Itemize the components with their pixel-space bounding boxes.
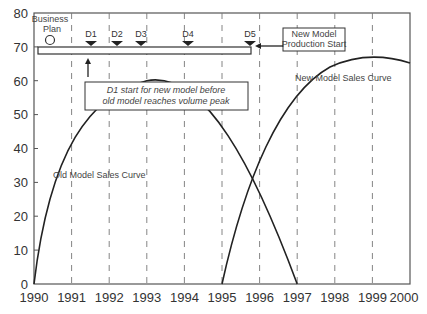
- production-start-arrow-icon: [255, 43, 283, 49]
- d3-triangle-icon: [135, 41, 147, 46]
- d1-label: D1: [85, 29, 97, 39]
- d2-label: D2: [111, 29, 123, 39]
- old-model-curve-label: Old Model Sales Curve: [53, 170, 146, 180]
- x-tick-1992: 1992: [95, 290, 124, 305]
- y-tick-20: 20: [14, 209, 28, 224]
- y-tick-70: 70: [14, 40, 28, 55]
- x-tick-1996: 1996: [245, 290, 274, 305]
- d1-arrow-icon: [85, 58, 91, 77]
- d2-triangle-icon: [111, 41, 123, 46]
- y-tick-50: 50: [14, 107, 28, 122]
- x-tick-2000: 2000: [390, 290, 419, 305]
- y-tick-30: 30: [14, 175, 28, 190]
- x-tick-1994: 1994: [170, 290, 199, 305]
- d4-label: D4: [182, 29, 194, 39]
- x-tick-1991: 1991: [57, 290, 86, 305]
- x-tick-1997: 1997: [283, 290, 312, 305]
- x-tick-1999: 1999: [358, 290, 387, 305]
- d5-triangle-icon: [244, 41, 256, 46]
- d4-triangle-icon: [182, 41, 194, 46]
- milestone-markers: [85, 41, 256, 46]
- business-plan-label-1: Business: [32, 14, 69, 24]
- x-tick-1995: 1995: [208, 290, 237, 305]
- y-tick-40: 40: [14, 141, 28, 156]
- development-timeline-bar: [38, 47, 251, 54]
- new-model-curve-label: New Model Sales Curve: [295, 73, 392, 83]
- x-tick-1998: 1998: [320, 290, 349, 305]
- y-tick-10: 10: [14, 243, 28, 258]
- x-tick-1993: 1993: [132, 290, 161, 305]
- d3-label: D3: [135, 29, 147, 39]
- x-axis-labels: 1990 1991 1992 1993 1994 1995 1996 1997 …: [20, 290, 419, 305]
- production-start-line-2: Production Start: [282, 39, 347, 49]
- business-plan-label-2: Plan: [43, 24, 61, 34]
- business-plan-circle-icon: [46, 36, 55, 45]
- old-model-sales-curve: [34, 80, 297, 284]
- y-tick-80: 80: [14, 6, 28, 21]
- x-tick-1990: 1990: [20, 290, 49, 305]
- d1-note-line-1: D1 start for new model before: [107, 85, 226, 95]
- new-model-sales-curve: [222, 57, 410, 284]
- d1-triangle-icon: [85, 41, 97, 46]
- y-tick-60: 60: [14, 74, 28, 89]
- d1-note-line-2: old model reaches volume peak: [102, 96, 230, 106]
- sales-curve-chart: 0 10 20 30 40 50 60 70 80 1990 1991 1992…: [0, 0, 427, 314]
- y-axis-labels: 0 10 20 30 40 50 60 70 80: [14, 6, 28, 292]
- production-start-line-1: New Model: [291, 29, 336, 39]
- d5-label: D5: [244, 29, 256, 39]
